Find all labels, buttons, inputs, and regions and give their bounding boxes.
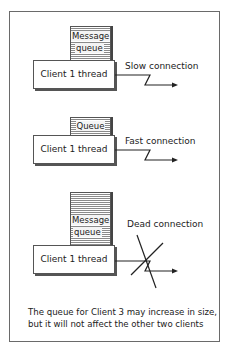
dead-connection-cross-2 bbox=[131, 243, 163, 275]
dead-connection-line bbox=[115, 261, 175, 271]
caption-line-2: but it will not affect the other two cli… bbox=[28, 318, 218, 330]
fast-connection-line bbox=[115, 150, 175, 160]
caption-line-1: The queue for Client 3 may increase in s… bbox=[28, 306, 218, 318]
arrowhead-icon bbox=[172, 83, 178, 88]
connection-lines bbox=[0, 0, 230, 350]
arrowhead-icon bbox=[172, 269, 178, 274]
slow-connection-line bbox=[115, 75, 175, 85]
arrowhead-icon bbox=[172, 158, 178, 163]
diagram-caption: The queue for Client 3 may increase in s… bbox=[28, 306, 218, 330]
